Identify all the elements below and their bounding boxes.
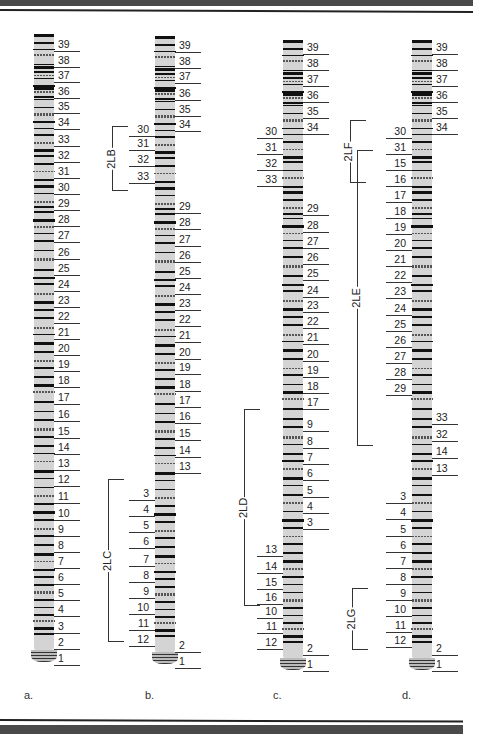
band: [155, 505, 175, 507]
band-label: 1: [58, 653, 74, 664]
band-label: 27: [58, 230, 74, 241]
band-label: 6: [307, 468, 323, 479]
band-label: 20: [58, 343, 74, 354]
band-label: 14: [179, 445, 195, 456]
band: [283, 97, 303, 99]
band: [283, 552, 303, 554]
band-tick: [303, 393, 329, 394]
band: [155, 115, 175, 118]
band: [412, 444, 432, 446]
band-label: 15: [261, 577, 277, 588]
band: [155, 329, 175, 331]
band-label: 29: [390, 383, 406, 394]
band: [34, 42, 54, 44]
band-tick: [54, 454, 80, 455]
band: [155, 344, 175, 347]
band-tick: [54, 307, 80, 308]
band: [34, 401, 54, 403]
band: [155, 89, 175, 92]
band-label: 19: [390, 222, 406, 233]
band: [33, 453, 55, 455]
band-label: 28: [58, 214, 74, 225]
band-tick: [257, 154, 283, 155]
band: [34, 376, 54, 378]
band: [412, 374, 432, 376]
band-label: 9: [133, 586, 149, 597]
band-label: 4: [58, 604, 74, 615]
band-tick: [54, 259, 80, 260]
band: [155, 586, 175, 588]
band-label: 30: [390, 126, 406, 137]
band: [412, 468, 432, 470]
band: [412, 191, 432, 194]
band: [283, 84, 303, 86]
band-tick: [386, 568, 412, 569]
band-tick: [386, 331, 412, 332]
band: [283, 233, 303, 235]
band: [34, 179, 54, 181]
band: [411, 460, 433, 462]
band-tick: [175, 457, 201, 458]
band-tick: [129, 532, 155, 533]
band-tick: [303, 280, 329, 281]
band-label: 23: [179, 298, 195, 309]
band-label: 23: [58, 295, 74, 306]
band: [412, 502, 432, 504]
band-tick: [386, 616, 412, 617]
band-label: 28: [179, 217, 195, 228]
band-label: 12: [133, 634, 149, 645]
band: [283, 536, 303, 538]
band-label: 10: [261, 606, 277, 617]
band: [412, 265, 432, 268]
band-label: 35: [436, 106, 452, 117]
band: [34, 113, 54, 116]
band-tick: [303, 513, 329, 514]
band: [34, 561, 54, 563]
band-label: 36: [179, 88, 195, 99]
band-tick: [175, 229, 201, 230]
band: [412, 543, 432, 545]
band-label: 37: [436, 74, 452, 85]
band: [154, 51, 176, 53]
band: [412, 391, 432, 394]
band: [34, 360, 54, 362]
band-tick: [54, 404, 80, 405]
band-label: 38: [307, 58, 323, 69]
band: [282, 398, 304, 400]
band-tick: [432, 441, 458, 442]
band-label: 3: [58, 621, 74, 632]
band-label: 16: [179, 411, 195, 422]
band: [282, 519, 304, 522]
band: [34, 478, 54, 480]
band: [412, 81, 432, 83]
band: [282, 576, 304, 578]
band: [412, 552, 432, 554]
band-label: 10: [133, 602, 149, 613]
band: [34, 34, 54, 37]
band-tick: [303, 361, 329, 362]
band-label: 26: [179, 250, 195, 261]
band-tick: [129, 598, 155, 599]
band-label: 16: [261, 592, 277, 603]
band: [412, 275, 432, 277]
band-tick: [54, 486, 80, 487]
band: [155, 157, 175, 159]
band-tick: [432, 655, 458, 656]
band: [34, 107, 54, 109]
band: [412, 592, 432, 594]
band: [34, 269, 54, 271]
band: [283, 77, 303, 79]
band-tick: [386, 363, 412, 364]
band: [155, 303, 175, 306]
band: [154, 173, 176, 175]
band-tick: [303, 480, 329, 481]
band: [283, 358, 303, 360]
band-tick: [386, 282, 412, 283]
band: [283, 607, 303, 609]
band: [34, 367, 54, 369]
band: [412, 358, 432, 360]
band-label: 10: [58, 508, 74, 519]
band-tick: [432, 102, 458, 103]
band: [412, 622, 432, 624]
band: [34, 91, 54, 93]
